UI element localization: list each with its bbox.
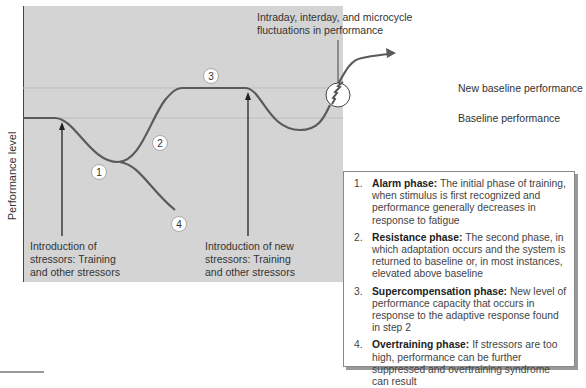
svg-text:3: 3 (208, 71, 214, 82)
svg-text:1: 1 (96, 167, 102, 178)
legend-item-overtraining: 4. Overtraining phase: If stressors are … (354, 339, 566, 388)
baseline-label: Baseline performance (458, 112, 560, 124)
svg-text:4: 4 (176, 219, 182, 230)
stressors-annotation-2: Introduction of new stressors: Training … (205, 240, 295, 279)
marker-1: 1 (92, 165, 107, 180)
marker-4: 4 (172, 217, 187, 232)
legend-item-resistance: 2. Resistance phase: The second phase, i… (354, 232, 566, 281)
marker-3: 3 (204, 69, 219, 84)
legend-item-supercompensation: 3. Supercompensation phase: New level of… (354, 286, 566, 335)
fluctuation-annotation: Intraday, interday, and microcycle fluct… (257, 11, 427, 37)
legend-item-alarm: 1. Alarm phase: The initial phase of tra… (354, 178, 566, 227)
marker-2: 2 (153, 136, 168, 151)
svg-text:2: 2 (157, 138, 163, 149)
continuation-curve (337, 54, 388, 86)
arrow-head-icon (386, 48, 396, 58)
y-axis-label: Performance level (6, 126, 18, 226)
phase-legend: 1. Alarm phase: The initial phase of tra… (343, 171, 575, 367)
new-baseline-label: New baseline performance (458, 82, 583, 94)
decorative-bar (0, 371, 44, 373)
stressors-annotation-1: Introduction of stressors: Training and … (30, 240, 120, 279)
